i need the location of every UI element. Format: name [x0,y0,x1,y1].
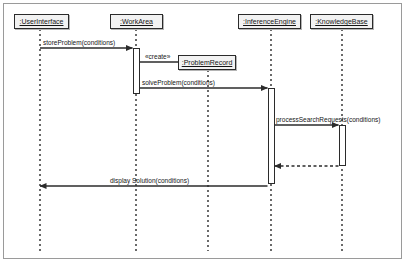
activation-bar-workarea[interactable] [133,48,140,94]
lifeline-head-problemrecord[interactable]: :ProblemRecord [178,55,236,70]
msg-solveproblem-label: solveProblem(conditions) [142,79,215,87]
msg-create-label: «create» [145,53,170,61]
activation-bar-knowledgebase[interactable] [339,125,346,166]
lifeline-head-inferenceengine[interactable]: :InferenceEngine [238,14,301,29]
msg-storeproblem-label: storeProblem(conditions) [43,39,115,47]
lifeline-head-knowledgebase[interactable]: :KnowledgeBase [310,14,373,29]
sequence-diagram-canvas: :UserInterface:WorkArea:ProblemRecord:In… [0,0,406,263]
activation-bar-inferenceengine[interactable] [268,88,275,184]
lifeline-head-workarea[interactable]: :WorkArea [110,14,163,29]
msg-displaysolution-label: display Solution(conditions) [110,177,189,185]
lifeline-head-userinterface[interactable]: :UserInterface [14,14,69,29]
msg-processsearchrequests-label: processSearchRequests(conditions) [276,116,380,124]
